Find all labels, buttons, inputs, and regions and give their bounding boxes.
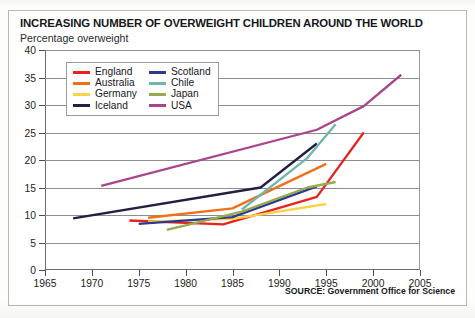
chart-subtitle: Percentage overweight	[20, 32, 128, 44]
legend-item-germany[interactable]: Germany	[73, 89, 137, 99]
x-tick-label: 1965	[34, 278, 57, 289]
legend-item-usa[interactable]: USA	[149, 101, 211, 111]
y-tick-label: 20	[25, 155, 36, 166]
x-tick-label: 1985	[221, 278, 244, 289]
x-tick	[45, 270, 46, 276]
legend-item-chile[interactable]: Chile	[149, 78, 211, 88]
x-tick	[279, 270, 280, 276]
x-tick	[139, 270, 140, 276]
legend-label: Chile	[171, 78, 194, 88]
legend-label: Australia	[95, 78, 135, 88]
legend-item-australia[interactable]: Australia	[73, 78, 137, 88]
y-tick-label: 35	[25, 72, 36, 83]
y-tick-label: 30	[25, 100, 36, 111]
legend-label: USA	[171, 101, 192, 111]
legend-item-japan[interactable]: Japan	[149, 89, 211, 99]
legend-item-england[interactable]: England	[73, 67, 137, 77]
legend-swatch-icon	[73, 104, 90, 107]
legend-swatch-icon	[73, 82, 90, 85]
y-tick-label: 10	[25, 210, 36, 221]
x-tick	[326, 270, 327, 276]
legend-swatch-icon	[149, 71, 166, 74]
legend-label: Germany	[95, 89, 137, 99]
legend-label: Japan	[171, 89, 199, 99]
x-tick-label: 1980	[174, 278, 197, 289]
legend-item-scotland[interactable]: Scotland	[149, 67, 211, 77]
legend: EnglandScotlandAustraliaChileGermanyJapa…	[66, 62, 219, 116]
x-tick-label: 1970	[80, 278, 103, 289]
y-tick-label: 25	[25, 127, 36, 138]
legend-label: England	[95, 67, 132, 77]
x-tick	[420, 270, 421, 276]
x-tick	[186, 270, 187, 276]
legend-label: Scotland	[171, 67, 211, 77]
chart-screenshot: INCREASING NUMBER OF OVERWEIGHT CHILDREN…	[0, 0, 475, 318]
x-tick	[233, 270, 234, 276]
chart-title: INCREASING NUMBER OF OVERWEIGHT CHILDREN…	[20, 17, 423, 29]
legend-swatch-icon	[73, 93, 90, 96]
x-tick	[373, 270, 374, 276]
legend-swatch-icon	[149, 93, 166, 96]
legend-swatch-icon	[149, 82, 166, 85]
x-tick-label: 1975	[127, 278, 150, 289]
legend-swatch-icon	[149, 104, 166, 107]
legend-swatch-icon	[73, 71, 90, 74]
legend-item-iceland[interactable]: Iceland	[73, 101, 137, 111]
legend-label: Iceland	[95, 101, 128, 111]
x-tick	[92, 270, 93, 276]
y-tick-label: 5	[30, 237, 36, 248]
y-tick-label: 0	[30, 265, 36, 276]
y-tick-label: 15	[25, 182, 36, 193]
y-tick-label: 40	[25, 45, 36, 56]
source-note: SOURCE: Government Office for Science	[285, 286, 455, 296]
